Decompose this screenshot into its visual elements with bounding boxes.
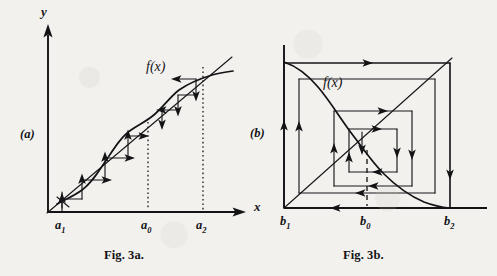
caption-fig-3b: Fig. 3b.: [343, 249, 384, 262]
curve-label-fx-a: f(x): [146, 60, 165, 74]
curve-label-fx-b: f(x): [323, 76, 342, 90]
tick-label-b1-sub: 1: [286, 221, 290, 231]
x-axis-a: [48, 207, 246, 216]
caption-fig-3a: Fig. 3a.: [104, 249, 144, 262]
tick-label-b2-sub: 2: [450, 221, 454, 231]
cobweb-rect-3-b: [330, 107, 416, 190]
y-axis-label-a: y: [41, 5, 47, 18]
curve-fx-a: [57, 71, 233, 204]
panel-label-a: (a): [20, 128, 35, 141]
y-axis-a: [43, 24, 52, 212]
cobweb-rect-4-b: [345, 125, 401, 176]
cobweb-upper-a: [156, 75, 200, 130]
tick-label-b2: b2: [444, 215, 455, 230]
panel-b-graphics: [280, 45, 487, 212]
tick-label-a0-sub: 0: [147, 225, 151, 235]
tick-label-a1-sub: 1: [61, 225, 65, 235]
tick-label-a0: a0: [141, 219, 152, 234]
tick-label-b1: b1: [280, 215, 291, 230]
tick-label-b0: b0: [360, 215, 371, 230]
panel-label-b: (b): [250, 127, 265, 140]
tick-label-b0-sub: 0: [366, 221, 370, 231]
figure-root: y x (a) f(x) a1 a0 a2 Fig. 3a. (b) f(x) …: [0, 0, 497, 276]
tick-label-a2: a2: [196, 219, 207, 234]
tick-label-a2-sub: 2: [202, 225, 206, 235]
figure-canvas: [0, 0, 497, 276]
diagonal-line-a: [47, 57, 232, 213]
x-axis-label-a: x: [254, 200, 261, 213]
panel-a-graphics: [43, 24, 246, 217]
tick-label-a1: a1: [55, 219, 66, 234]
